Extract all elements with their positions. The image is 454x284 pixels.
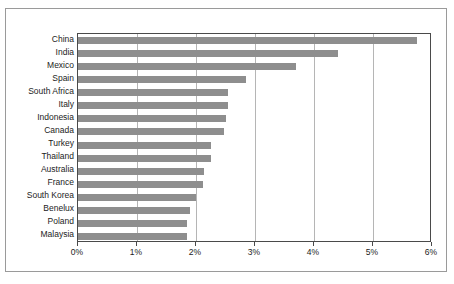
- category-label: Turkey: [6, 139, 74, 148]
- y-axis-category-labels: ChinaIndiaMexicoSpainSouth AfricaItalyIn…: [6, 33, 74, 242]
- category-label: France: [6, 178, 74, 187]
- bar: [78, 233, 187, 240]
- category-label: South Africa: [6, 87, 74, 96]
- category-label: Spain: [6, 74, 74, 83]
- bar-row: [78, 112, 430, 125]
- bar: [78, 155, 211, 162]
- bar-row: [78, 152, 430, 165]
- x-tick-mark: [431, 242, 432, 246]
- x-tick-mark: [195, 242, 196, 246]
- bar: [78, 194, 196, 201]
- category-label: Canada: [6, 126, 74, 135]
- x-tick-label: 6%: [425, 247, 437, 257]
- bar: [78, 220, 187, 227]
- bar-row: [78, 204, 430, 217]
- chart-frame: ChinaIndiaMexicoSpainSouth AfricaItalyIn…: [5, 8, 447, 272]
- category-label: Indonesia: [6, 113, 74, 122]
- x-tick-label: 3%: [248, 247, 260, 257]
- bar-row: [78, 217, 430, 230]
- bar-row: [78, 125, 430, 138]
- category-label: China: [6, 35, 74, 44]
- plot-area: [77, 33, 431, 242]
- x-tick-mark: [313, 242, 314, 246]
- bar: [78, 115, 226, 122]
- x-tick-label: 1%: [130, 247, 142, 257]
- category-label: Italy: [6, 100, 74, 109]
- bar-row: [78, 191, 430, 204]
- bar: [78, 50, 338, 57]
- bar-row: [78, 34, 430, 47]
- bar-row: [78, 139, 430, 152]
- category-label: Mexico: [6, 61, 74, 70]
- bar: [78, 181, 203, 188]
- category-label: Australia: [6, 165, 74, 174]
- bar-series: [78, 34, 430, 241]
- bar-row: [78, 73, 430, 86]
- bar: [78, 207, 190, 214]
- x-tick-mark: [254, 242, 255, 246]
- bar: [78, 168, 204, 175]
- bar-row: [78, 60, 430, 73]
- category-label: Poland: [6, 217, 74, 226]
- x-tick-mark: [372, 242, 373, 246]
- bar: [78, 102, 228, 109]
- x-tick-label: 0%: [71, 247, 83, 257]
- category-label: South Korea: [6, 191, 74, 200]
- bar-row: [78, 86, 430, 99]
- bar: [78, 142, 211, 149]
- category-label: India: [6, 48, 74, 57]
- bar: [78, 37, 417, 44]
- bar: [78, 76, 246, 83]
- bar-row: [78, 47, 430, 60]
- category-label: Malaysia: [6, 230, 74, 239]
- bar-row: [78, 99, 430, 112]
- category-label: Thailand: [6, 152, 74, 161]
- x-tick-mark: [77, 242, 78, 246]
- bar-row: [78, 165, 430, 178]
- category-label: Benelux: [6, 204, 74, 213]
- bar: [78, 128, 224, 135]
- bar: [78, 63, 296, 70]
- x-tick-mark: [136, 242, 137, 246]
- x-tick-label: 5%: [366, 247, 378, 257]
- x-axis: 0%1%2%3%4%5%6%: [77, 242, 432, 264]
- bar: [78, 89, 228, 96]
- bar-row: [78, 178, 430, 191]
- x-tick-label: 4%: [307, 247, 319, 257]
- x-tick-label: 2%: [189, 247, 201, 257]
